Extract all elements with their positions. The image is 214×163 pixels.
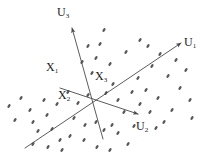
scatter-point <box>146 44 150 49</box>
scatter-point <box>130 90 134 95</box>
scatter-point <box>178 86 182 91</box>
scatter-point <box>138 102 142 107</box>
scatter-point <box>190 116 194 121</box>
scatter-point <box>7 104 11 109</box>
scatter-point <box>144 88 148 93</box>
scatter-point <box>82 138 86 143</box>
scatter-point <box>136 76 140 81</box>
scatter-point <box>108 148 112 153</box>
scatter-point <box>95 145 99 150</box>
scatter-point <box>94 56 98 61</box>
point-label-x2-sub: 2 <box>67 95 71 103</box>
scatter-point <box>55 102 59 107</box>
scatter-point <box>42 98 46 103</box>
scatter-point <box>170 108 174 113</box>
scatter-point <box>156 96 160 101</box>
scatter-point <box>124 50 128 55</box>
scatter-point <box>90 71 94 76</box>
axis-label-u3-base: U <box>57 5 66 19</box>
axis-label-u3-sub: 3 <box>66 12 70 20</box>
scatter-point <box>19 96 23 101</box>
axis-label-u3: U3 <box>57 6 69 18</box>
axis-label-u2-base: U <box>136 119 145 133</box>
point-label-x2: X2 <box>58 89 70 101</box>
scatter-point <box>58 138 62 143</box>
point-label-x2-base: X <box>58 88 67 102</box>
scatter-point <box>138 38 142 43</box>
axis-label-u1-base: U <box>184 35 193 49</box>
scatter-point <box>126 142 130 147</box>
scatter-points-group <box>7 28 194 153</box>
axis-label-u2-sub: 2 <box>145 126 149 134</box>
scatter-point <box>46 145 50 150</box>
scatter-point <box>31 120 35 125</box>
scatter-point <box>108 62 112 67</box>
scatter-point <box>68 134 72 139</box>
axis-line-u1 <box>25 43 181 148</box>
point-label-x3: X3 <box>95 70 107 82</box>
point-label-x1: X1 <box>46 61 58 73</box>
scatter-point <box>111 82 115 87</box>
scatter-point <box>150 64 154 69</box>
scatter-point <box>13 118 17 123</box>
scatter-point <box>110 123 114 128</box>
scatter-point <box>36 129 40 134</box>
scatter-point <box>86 44 90 49</box>
scatter-point <box>102 28 106 33</box>
axis-label-u2: U2 <box>136 120 148 132</box>
axis-label-u1: U1 <box>184 36 196 48</box>
coordinate-system-diagram: U1 U2 U3 X1 X2 X3 <box>0 0 214 163</box>
point-label-x1-sub: 1 <box>55 67 59 75</box>
point-label-x1-base: X <box>46 60 55 74</box>
scatter-point <box>174 58 178 63</box>
point-label-x3-base: X <box>95 69 104 83</box>
scatter-point <box>184 68 188 73</box>
scatter-point <box>166 74 170 79</box>
axis-line-u3 <box>72 28 103 139</box>
scatter-point <box>28 108 32 113</box>
scatter-point <box>102 128 106 133</box>
scatter-point <box>60 148 64 153</box>
axis-line-u2 <box>60 88 138 114</box>
axis-label-u1-sub: 1 <box>193 42 197 50</box>
scatter-point <box>154 126 158 131</box>
scatter-point <box>116 98 120 103</box>
point-label-x3-sub: 3 <box>104 76 108 84</box>
scatter-point <box>148 110 152 115</box>
scatter-point <box>45 113 49 118</box>
scatter-point <box>188 98 192 103</box>
scatter-point <box>162 120 166 125</box>
scatter-point <box>83 123 87 128</box>
scatter-point <box>116 131 120 136</box>
scatter-point <box>98 42 102 47</box>
scatter-point <box>76 101 80 106</box>
